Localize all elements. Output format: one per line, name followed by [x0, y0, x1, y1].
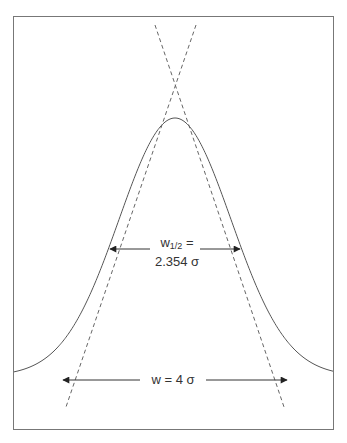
tangent-line-right: [155, 25, 284, 407]
half-width-value: 2.354 σ: [145, 254, 209, 269]
half-width-symbol: w: [160, 235, 169, 250]
half-width-label: w1/2 = 2.354 σ: [145, 235, 209, 269]
half-width-subscript: 1/2: [170, 241, 183, 251]
half-width-equals: =: [182, 235, 193, 250]
base-width-label: w = 4 σ: [140, 372, 206, 387]
tangent-line-left: [66, 25, 196, 407]
